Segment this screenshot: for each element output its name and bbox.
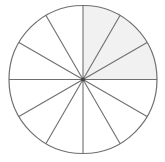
fraction-circle-diagram <box>0 0 165 162</box>
shaded-sectors <box>83 6 157 80</box>
center-dot <box>81 78 85 82</box>
